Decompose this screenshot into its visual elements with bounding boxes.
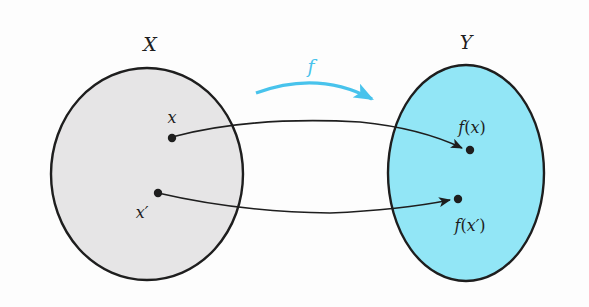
- point-x-dot: [168, 134, 176, 142]
- point-x-label: x: [167, 108, 176, 127]
- point-fx-prime-arg: x′: [467, 216, 480, 235]
- point-fx-dot: [466, 146, 474, 154]
- domain-ellipse: [51, 68, 243, 280]
- codomain-set-y: Y: [388, 31, 544, 281]
- point-fx-prime-dot: [454, 195, 462, 203]
- function-label: f: [305, 55, 317, 77]
- point-x-prime-label: x′: [136, 203, 149, 222]
- function-arrow: f: [256, 55, 372, 99]
- function-mapping-diagram: X Y f x x′ f(x) f(x′): [0, 0, 589, 307]
- codomain-label: Y: [460, 31, 475, 53]
- point-fx-prime-close: ): [479, 216, 485, 235]
- point-fx-prime-label: f(x′): [453, 216, 485, 235]
- point-fx-arg: x: [470, 118, 479, 137]
- function-arrow-curve: [256, 83, 372, 99]
- point-x-prime-dot: [154, 189, 162, 197]
- point-fx-close: ): [479, 118, 485, 137]
- domain-label: X: [141, 33, 158, 55]
- codomain-ellipse: [388, 65, 544, 281]
- point-fx-label: f(x): [457, 118, 485, 137]
- domain-set-x: X: [51, 33, 243, 280]
- point-x: x: [167, 108, 176, 142]
